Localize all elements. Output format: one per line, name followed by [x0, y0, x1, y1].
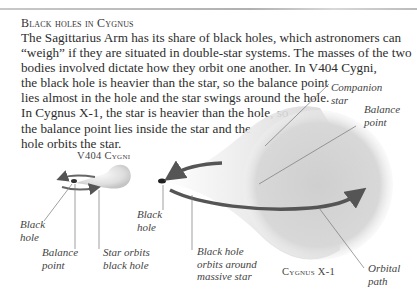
label-line: hole — [20, 231, 45, 244]
v404-caption: V404 Cygni — [77, 150, 130, 161]
label-line: Black hole — [197, 245, 257, 258]
label-line: Balance — [42, 246, 78, 259]
cygnus-x1-star — [163, 106, 393, 260]
label-line: Black — [137, 208, 162, 221]
v404-balance-point-label: Balance point — [42, 246, 78, 271]
v404-black-hole — [71, 179, 77, 183]
v404-orbit-lower — [62, 187, 95, 189]
cygx1-caption: Cygnus X-1 — [282, 266, 335, 277]
label-line: massive star — [197, 270, 257, 283]
label-line: point — [364, 116, 400, 129]
cygx1-balance-point-label: Balance point — [364, 103, 400, 128]
label-line: Black — [20, 218, 45, 231]
v404-star-orbits-label: Star orbits black hole — [103, 246, 150, 271]
label-line: Companion — [331, 81, 382, 94]
cygx1-black-hole-label: Black hole — [137, 208, 162, 233]
label-line: black hole — [103, 259, 150, 272]
cygx1-orbital-path-label: Orbital path — [368, 262, 400, 287]
label-line: point — [42, 259, 78, 272]
label-line: hole — [137, 221, 162, 234]
cygnus-x1-black-hole — [158, 179, 166, 184]
label-line: Orbital — [368, 262, 400, 275]
v404-black-hole-label: Black hole — [20, 218, 45, 243]
label-line: Balance — [364, 103, 400, 116]
cygx1-bh-orbits-label: Black hole orbits around massive star — [197, 245, 257, 283]
label-line: orbits around — [197, 258, 257, 271]
label-line: Star orbits — [103, 246, 150, 259]
v404-orbit-upper — [62, 176, 95, 178]
label-line: path — [368, 275, 400, 288]
